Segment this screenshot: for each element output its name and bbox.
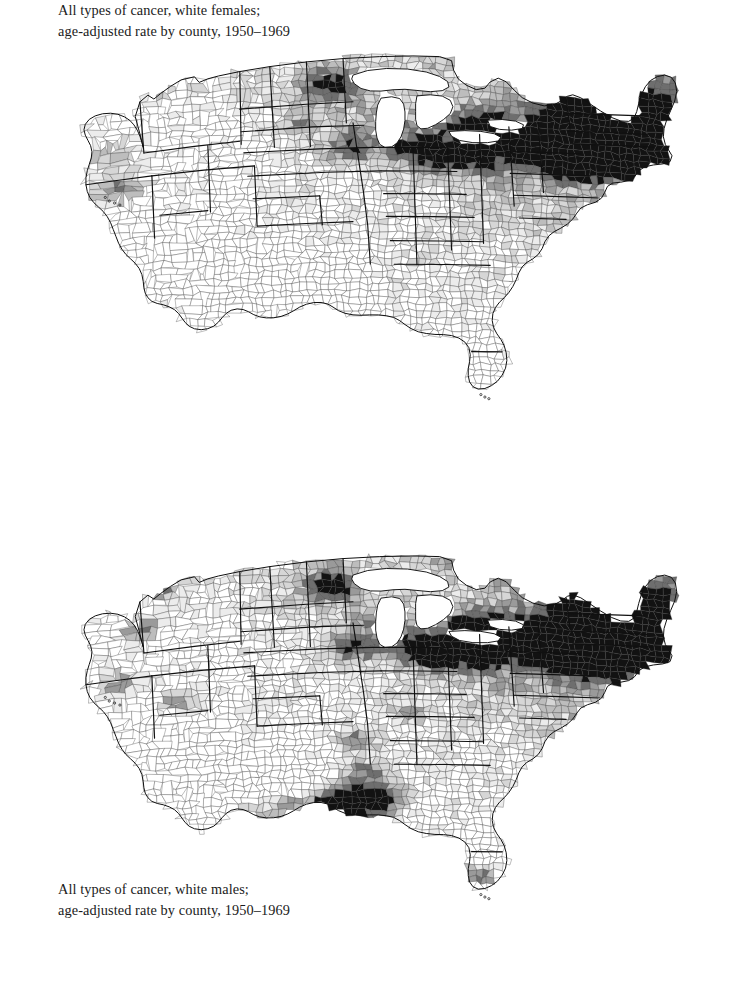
county-polygon	[183, 148, 195, 157]
county-polygon	[291, 764, 301, 769]
county-polygon	[384, 258, 391, 265]
county-polygon	[606, 622, 611, 629]
county-polygon	[197, 733, 207, 743]
county-polygon	[170, 617, 176, 627]
county-polygon	[486, 183, 495, 190]
county-polygon	[283, 626, 296, 633]
county-polygon	[621, 173, 625, 181]
county-polygon	[397, 645, 405, 652]
county-polygon	[120, 667, 137, 673]
county-polygon	[342, 223, 352, 233]
county-polygon	[240, 238, 247, 248]
county-polygon	[256, 628, 266, 635]
county-polygon	[204, 785, 214, 798]
county-polygon	[230, 89, 237, 96]
caption-line-2: age-adjusted rate by county, 1950–1969	[58, 900, 478, 921]
county-polygon	[373, 678, 381, 687]
county-polygon	[312, 113, 325, 121]
county-polygon	[438, 726, 446, 732]
county-polygon	[468, 323, 477, 331]
county-polygon	[351, 560, 360, 568]
county-polygon	[445, 563, 453, 570]
county-polygon	[561, 719, 568, 726]
county-polygon	[598, 684, 606, 690]
choropleth-svg-males	[0, 500, 742, 940]
county-polygon	[337, 302, 344, 312]
figure-white-males: All types of cancer, white males; age-ad…	[0, 500, 742, 1000]
county-polygon	[271, 304, 278, 318]
county-polygon	[176, 90, 188, 99]
county-polygon	[335, 785, 344, 790]
county-polygon	[228, 765, 243, 774]
county-polygon	[291, 303, 303, 311]
county-polygon	[552, 167, 563, 176]
county-polygon	[580, 138, 590, 143]
county-polygon	[439, 303, 447, 312]
county-polygon	[349, 699, 362, 705]
county-polygon	[410, 181, 417, 186]
county-polygon	[89, 173, 104, 180]
figure-white-females: All types of cancer, white females; age-…	[0, 0, 742, 500]
county-polygon	[156, 764, 165, 772]
county-polygon	[288, 225, 294, 231]
county-polygon	[315, 186, 324, 191]
county-polygon	[313, 108, 325, 114]
county-polygon	[494, 869, 506, 878]
county-polygon	[314, 737, 323, 746]
county-polygon	[388, 217, 396, 224]
county-polygon	[335, 270, 345, 279]
county-polygon	[570, 662, 577, 668]
county-polygon	[530, 154, 541, 161]
county-polygon	[254, 733, 264, 741]
county-polygon	[581, 99, 591, 107]
county-polygon	[228, 636, 246, 641]
county-polygon	[262, 569, 270, 577]
map-white-males	[0, 500, 742, 940]
county-polygon	[429, 825, 439, 830]
county-polygon	[425, 227, 433, 233]
county-polygon	[143, 685, 152, 692]
county-polygon	[553, 611, 564, 616]
county-polygon	[257, 711, 267, 718]
county-polygon	[654, 625, 663, 634]
county-polygon	[452, 245, 462, 253]
county-polygon	[241, 174, 253, 180]
state-boundary	[381, 671, 457, 672]
caption-line-1: All types of cancer, white males;	[58, 879, 478, 900]
county-polygon	[154, 781, 163, 790]
county-polygon	[284, 67, 295, 75]
county-polygon	[203, 797, 211, 807]
county-polygon	[118, 224, 130, 233]
county-polygon	[640, 655, 646, 661]
county-polygon	[408, 770, 416, 779]
county-polygon	[361, 744, 366, 750]
county-polygon	[640, 138, 651, 143]
county-polygon	[481, 259, 489, 267]
county-polygon	[266, 192, 282, 198]
county-polygon	[341, 725, 353, 733]
county-polygon	[350, 606, 360, 613]
county-polygon	[209, 110, 216, 117]
county-polygon	[198, 319, 205, 327]
county-polygon	[350, 625, 361, 635]
county-polygon	[444, 70, 455, 77]
county-polygon	[488, 658, 496, 665]
county-polygon	[511, 210, 516, 218]
county-polygon	[161, 665, 170, 671]
county-polygon	[505, 267, 513, 275]
county-polygon	[153, 191, 172, 198]
county-polygon	[599, 645, 605, 651]
county-polygon	[654, 645, 662, 652]
county-polygon	[185, 183, 191, 196]
county-polygon	[655, 132, 664, 139]
county-polygon	[299, 277, 307, 282]
county-polygon	[416, 679, 425, 685]
county-polygon	[670, 84, 679, 90]
county-polygon	[559, 596, 570, 603]
county-polygon	[271, 100, 281, 109]
county-polygon	[93, 655, 109, 661]
county-polygon	[342, 152, 353, 159]
county-polygon	[452, 176, 463, 182]
county-polygon	[156, 274, 172, 282]
county-polygon	[161, 780, 172, 794]
